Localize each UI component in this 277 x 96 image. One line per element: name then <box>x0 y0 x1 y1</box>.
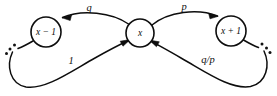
edge-x-to-minus-label: q <box>86 2 91 13</box>
right-continuation-stub <box>244 40 259 48</box>
edge-right-loop-label: q/p <box>201 54 214 65</box>
node-state-current-label: x <box>137 28 143 38</box>
ellipsis-right-icon <box>261 43 272 55</box>
state-transition-diagram: q p 1 q/p <box>0 0 277 96</box>
node-state-plus-label: x + 1 <box>220 26 241 36</box>
edge-left-loop-to-x: 1 <box>10 40 131 88</box>
node-state-minus: x − 1 <box>31 17 61 47</box>
node-state-current: x <box>126 19 154 47</box>
edge-x-to-plus-label: p <box>180 1 186 12</box>
edge-x-to-plus-path <box>152 12 218 25</box>
edge-x-to-minus-path <box>63 13 129 24</box>
ellipsis-left-icon <box>5 44 16 56</box>
edge-left-loop-label: 1 <box>68 55 73 66</box>
edge-x-to-plus: p <box>152 1 218 25</box>
edge-right-loop-to-x: q/p <box>149 40 267 87</box>
node-state-minus-label: x − 1 <box>35 27 56 37</box>
node-state-plus: x + 1 <box>216 16 246 46</box>
edge-x-to-minus: q <box>62 2 129 24</box>
diagram-canvas: q p 1 q/p <box>0 0 277 96</box>
left-continuation-stub <box>18 41 33 49</box>
